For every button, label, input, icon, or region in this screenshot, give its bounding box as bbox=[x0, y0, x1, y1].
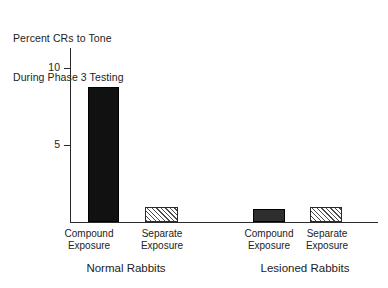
category-label-line-2: Exposure bbox=[296, 240, 358, 252]
bar-chart-figure: Percent CRs to Tone During Phase 3 Testi… bbox=[0, 0, 388, 288]
y-tick-label-5: 5 bbox=[54, 138, 60, 150]
category-label-lesioned-compound: Compound Exposure bbox=[238, 228, 300, 252]
category-label-line-2: Exposure bbox=[238, 240, 300, 252]
category-label-lesioned-separate: Separate Exposure bbox=[296, 228, 358, 252]
category-label-line-1: Compound bbox=[58, 228, 120, 240]
category-label-line-2: Exposure bbox=[131, 240, 193, 252]
group-label-normal-rabbits: Normal Rabbits bbox=[66, 262, 186, 274]
y-tick-5: 5 bbox=[0, 145, 70, 146]
category-label-normal-separate: Separate Exposure bbox=[131, 228, 193, 252]
plot-area bbox=[70, 48, 378, 222]
category-label-line-1: Compound bbox=[238, 228, 300, 240]
x-axis-line bbox=[70, 222, 378, 223]
chart-title-line-1: Percent CRs to Tone bbox=[13, 32, 124, 45]
y-tick-10: 10 bbox=[0, 68, 70, 69]
bar-normal-separate[interactable] bbox=[145, 207, 178, 222]
bar-normal-compound[interactable] bbox=[88, 87, 119, 223]
bar-lesioned-compound[interactable] bbox=[253, 209, 285, 222]
category-label-normal-compound: Compound Exposure bbox=[58, 228, 120, 252]
bar-lesioned-separate[interactable] bbox=[310, 207, 342, 222]
y-tick-label-10: 10 bbox=[48, 61, 60, 73]
category-label-line-1: Separate bbox=[131, 228, 193, 240]
category-label-line-2: Exposure bbox=[58, 240, 120, 252]
group-label-lesioned-rabbits: Lesioned Rabbits bbox=[245, 262, 365, 274]
category-label-line-1: Separate bbox=[296, 228, 358, 240]
